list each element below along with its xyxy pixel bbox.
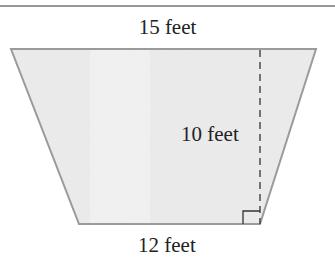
trapezoid-diagram: 15 feet 10 feet 12 feet [0, 0, 335, 271]
top-base-label: 15 feet [0, 17, 335, 38]
shading-band [90, 50, 150, 223]
height-label: 10 feet [181, 124, 239, 145]
diagram-svg [0, 0, 335, 271]
texture-overlay [11, 49, 316, 224]
bottom-base-label: 12 feet [138, 235, 196, 256]
